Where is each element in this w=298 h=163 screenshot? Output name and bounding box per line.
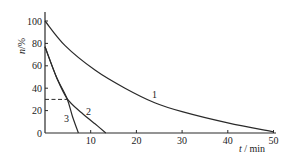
- y-tick-label: 40: [32, 83, 42, 94]
- y-tick-label: 0: [37, 128, 42, 139]
- x-tick-label: 10: [86, 135, 96, 146]
- x-tick-label: 40: [223, 135, 233, 146]
- curve-label-3: 3: [64, 113, 69, 124]
- curves: [45, 21, 274, 133]
- chart: 020406080100 1020304050 123 n/% t / min: [0, 0, 298, 163]
- x-tick-label: 20: [131, 135, 141, 146]
- x-axis-label: t / min: [239, 143, 265, 154]
- x-tick-label: 30: [177, 135, 187, 146]
- curve-label-1: 1: [152, 89, 157, 100]
- line-chart: 020406080100 1020304050 123 n/% t / min: [0, 0, 298, 163]
- y-tick-label: 80: [32, 38, 42, 49]
- x-tick-label: 50: [269, 135, 279, 146]
- curve-label-2: 2: [86, 106, 91, 117]
- y-tick-label: 20: [32, 105, 42, 116]
- curve-1: [45, 21, 274, 132]
- axes: [45, 12, 276, 133]
- y-axis-label: n/%: [16, 38, 27, 54]
- y-tick-label: 60: [32, 60, 42, 71]
- curve-2: [45, 47, 106, 133]
- y-tick-label: 100: [27, 16, 42, 27]
- curve-labels: 123: [64, 89, 157, 124]
